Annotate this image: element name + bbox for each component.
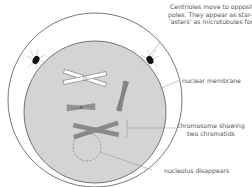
cell-diagram	[0, 0, 252, 187]
label-nucleolus: nucleolus disappears	[164, 167, 229, 175]
label-chromosome: chromosome showing two chromatids	[177, 122, 245, 137]
label-centrioles-line1: Centrioles move to opposite	[168, 3, 252, 11]
label-chromosome-line2: two chromatids	[177, 130, 245, 138]
label-centrioles-line3: 'asters' as microtubules form.	[168, 18, 252, 26]
label-chromosome-line1: chromosome showing	[177, 122, 245, 130]
label-centrioles: Centrioles move to opposite poles. They …	[168, 3, 252, 26]
nucleus	[24, 41, 166, 183]
label-centrioles-line2: poles. They appear as star-like	[168, 11, 252, 19]
label-nuclear-membrane: nuclear membrane	[182, 77, 241, 85]
